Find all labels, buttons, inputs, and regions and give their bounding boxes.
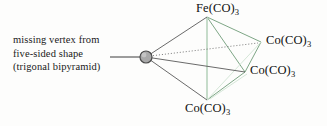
green-cluster-edges [207, 17, 261, 100]
edge-open-to-fe [146, 17, 207, 57]
vertex-label-co-middle-text: Co(CO) [250, 63, 291, 77]
vertex-label-fe-top: Fe(CO)3 [196, 1, 239, 16]
open-vertex-edges [146, 17, 258, 100]
vertex-label-co-right-text: Co(CO) [266, 33, 307, 47]
annotation-line-2: five-sided shape [13, 47, 119, 61]
edge-fe-to-co-mid [207, 17, 245, 72]
vertex-label-co-bottom-subscript: 3 [226, 107, 230, 117]
edge-co-mid-to-co-bottom [207, 72, 245, 100]
vertex-label-co-middle: Co(CO)3 [250, 63, 295, 78]
vertex-label-co-right: Co(CO)3 [266, 33, 311, 48]
annotation-line-1: missing vertex from [13, 33, 119, 47]
missing-vertex-node [140, 51, 152, 63]
vertex-label-fe-subscript: 3 [235, 7, 239, 17]
edge-open-to-co-right-dotted [150, 43, 258, 56]
vertex-label-co-bottom: Co(CO)3 [185, 101, 230, 116]
missing-vertex-highlight [142, 53, 147, 58]
edge-open-to-co-bottom [146, 57, 207, 100]
edge-open-to-co-mid [146, 57, 245, 72]
vertex-label-co-middle-subscript: 3 [291, 69, 295, 79]
vertex-label-co-right-subscript: 3 [307, 39, 311, 49]
vertex-label-fe-text: Fe(CO) [196, 1, 235, 15]
vertex-label-co-bottom-text: Co(CO) [185, 101, 226, 115]
chemical-structure-figure: missing vertex from five-sided shape (tr… [0, 0, 327, 126]
edge-co-bottom-to-co-mid-back [210, 74, 247, 99]
annotation-line-3: (trigonal bipyramid) [13, 60, 119, 74]
annotation-text: missing vertex from five-sided shape (tr… [13, 33, 119, 74]
